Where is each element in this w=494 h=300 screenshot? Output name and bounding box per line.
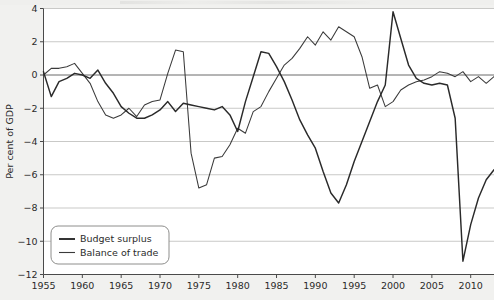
y-axis-label: Per cent of GDP <box>4 104 15 179</box>
x-axis-tick-label: 1955 <box>31 280 55 291</box>
legend-label-balance-of-trade: Balance of trade <box>80 247 159 258</box>
x-axis-tick-label: 1975 <box>187 280 211 291</box>
y-axis-tick-label: −12 <box>17 269 37 280</box>
y-axis-tick-label: −4 <box>23 136 37 147</box>
y-axis-tick-label: −10 <box>17 236 37 247</box>
x-axis-tick-label: 2000 <box>381 280 405 291</box>
chart-figure: 420−2−4−6−8−10−12 1955196019651970197519… <box>0 0 494 300</box>
y-axis-tick-label: −6 <box>23 169 37 180</box>
x-axis-tick-label: 1960 <box>70 280 94 291</box>
chart-legend[interactable]: Budget surplus Balance of trade <box>51 226 169 264</box>
x-axis-tick-label: 1965 <box>109 280 133 291</box>
y-axis-tick-label: −8 <box>23 202 37 213</box>
scan-artifact-strip <box>0 0 494 5</box>
x-axis-tick-label: 2010 <box>459 280 483 291</box>
legend-background <box>51 226 169 264</box>
x-axis-tick-label: 1990 <box>303 280 327 291</box>
y-axis-tick-label: 2 <box>31 36 37 47</box>
y-axis-ticks-group: 420−2−4−6−8−10−12 <box>17 3 43 280</box>
y-axis-tick-label: 0 <box>31 69 37 80</box>
x-axis-tick-label: 1995 <box>342 280 366 291</box>
legend-label-budget-surplus: Budget surplus <box>80 233 152 244</box>
x-axis-tick-label: 2005 <box>420 280 444 291</box>
y-axis-tick-label: −2 <box>23 103 37 114</box>
x-axis-tick-label: 1970 <box>148 280 172 291</box>
x-axis-tick-label: 1985 <box>264 280 288 291</box>
x-axis-ticks-group: 1955196019651970197519801985199019952000… <box>31 275 482 292</box>
x-axis-tick-label: 1980 <box>226 280 250 291</box>
line-chart: 420−2−4−6−8−10−12 1955196019651970197519… <box>0 0 494 300</box>
